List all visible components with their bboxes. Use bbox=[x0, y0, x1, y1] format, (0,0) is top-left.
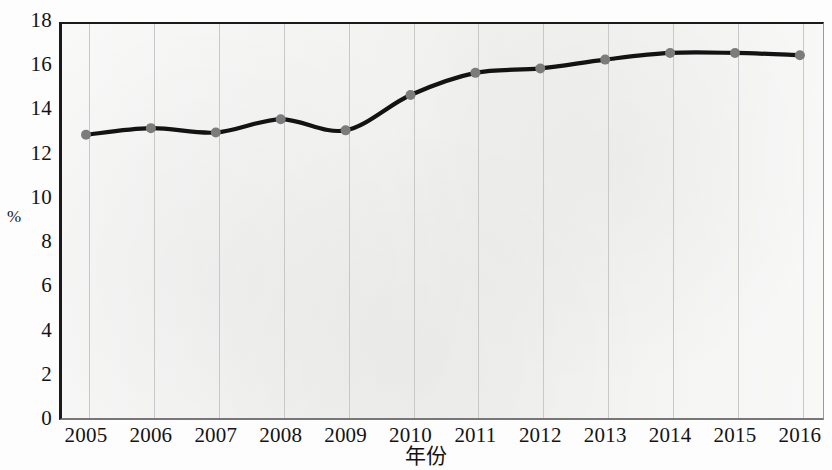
series-markers bbox=[81, 48, 805, 140]
data-point-marker bbox=[81, 130, 91, 140]
data-point-marker bbox=[470, 68, 480, 78]
data-point-marker bbox=[535, 63, 545, 73]
data-point-marker bbox=[341, 125, 351, 135]
data-point-marker bbox=[406, 90, 416, 100]
data-point-marker bbox=[730, 48, 740, 58]
data-point-marker bbox=[276, 114, 286, 124]
series-line bbox=[86, 52, 800, 134]
data-point-marker bbox=[665, 48, 675, 58]
data-point-marker bbox=[211, 128, 221, 138]
data-point-marker bbox=[600, 55, 610, 65]
data-series-layer bbox=[0, 0, 832, 470]
line-chart: 024681012141618 % 2005200620072008200920… bbox=[0, 0, 832, 470]
data-point-marker bbox=[795, 50, 805, 60]
data-point-marker bbox=[146, 123, 156, 133]
